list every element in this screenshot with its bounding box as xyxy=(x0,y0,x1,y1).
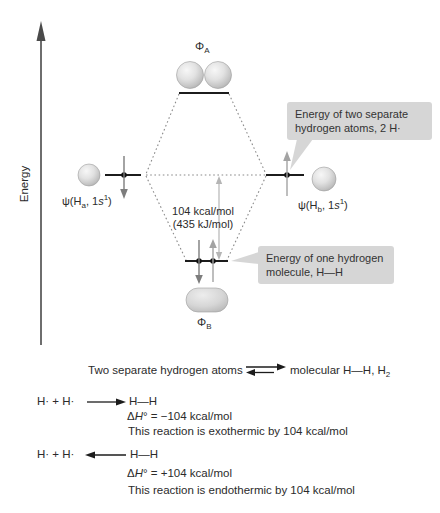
energy-gap-kj: (435 kJ/mol) xyxy=(165,218,241,231)
phi-a-symbol: Φ xyxy=(195,40,204,52)
antibonding-orbital-lobe-right-icon xyxy=(205,62,232,89)
atomic-orbital-b-label: ψ(Hb, 1s1) xyxy=(298,195,348,216)
electron-spin-down-arrowhead-a-icon xyxy=(120,189,128,199)
equilibrium-right-sub: 2 xyxy=(386,370,390,379)
equilibrium-right-main: molecular H—H, H xyxy=(290,364,386,376)
callout-molecule-line1: Energy of one hydrogen xyxy=(266,251,386,265)
callout-atoms-line1: Energy of two separate xyxy=(295,107,424,121)
psi-b-pre: ψ(H xyxy=(298,199,317,211)
hydrogen-b-1s-sphere-icon xyxy=(312,167,336,191)
callout-separate-atoms: Energy of two separate hydrogen atoms, 2… xyxy=(287,102,432,140)
callout-molecule-pointer-icon xyxy=(231,252,259,264)
reverse-dh-value: = +104 kcal/mol xyxy=(148,467,232,479)
callout-atoms-pointer-icon xyxy=(290,139,313,170)
forward-dh-h: H xyxy=(135,410,143,422)
forward-dh-delta: Δ xyxy=(127,410,135,422)
forward-reaction-arrowhead-icon xyxy=(116,398,126,405)
equilibrium-reverse-arrowhead-icon xyxy=(246,369,255,376)
bonding-spin-down-arrowhead-icon xyxy=(195,275,203,284)
reverse-reaction-arrowhead-icon xyxy=(85,451,95,458)
psi-a-mid: , 1 xyxy=(86,195,98,207)
energy-axis-arrowhead-icon xyxy=(37,21,46,41)
psi-a-pre: ψ(H xyxy=(62,195,81,207)
antibonding-orbital-label: ΦA xyxy=(195,40,210,57)
bonding-orbital-lobe-icon xyxy=(186,288,228,312)
forward-product: H—H xyxy=(129,395,157,408)
reverse-dh-h: H xyxy=(135,467,143,479)
energy-gap-arrowhead-up-icon xyxy=(216,176,222,184)
reverse-note: This reaction is endothermic by 104 kcal… xyxy=(128,484,355,497)
callout-molecule-line2: molecule, H—H xyxy=(266,265,386,279)
bonding-spin-up-arrowhead-icon xyxy=(209,239,217,248)
dotted-connector-antibonding-left xyxy=(146,94,179,174)
phi-a-sub: A xyxy=(204,46,209,55)
equilibrium-left-text: Two separate hydrogen atoms xyxy=(88,364,243,377)
energy-gap-arrowhead-down-icon xyxy=(216,252,222,260)
forward-enthalpy: ΔH° = −104 kcal/mol xyxy=(127,410,232,423)
forward-reactants: H· + H· xyxy=(37,395,74,408)
phi-b-symbol: Φ xyxy=(197,316,206,328)
reverse-enthalpy: ΔH° = +104 kcal/mol xyxy=(127,467,232,480)
psi-a-post: ) xyxy=(108,195,112,207)
bonding-orbital-label: ΦB xyxy=(197,316,212,333)
callout-hydrogen-molecule: Energy of one hydrogen molecule, H—H xyxy=(258,246,394,284)
dotted-connector-antibonding-right xyxy=(229,94,266,174)
forward-note: This reaction is exothermic by 104 kcal/… xyxy=(128,425,348,438)
psi-b-mid: , 1 xyxy=(322,199,334,211)
forward-dh-value: = −104 kcal/mol xyxy=(148,410,232,422)
mo-energy-diagram-figure: Energy ΦA ψ(Ha, 1s1) ψ(Hb, 1s1) 104 kcal… xyxy=(0,0,440,513)
equilibrium-forward-arrowhead-icon xyxy=(277,363,286,370)
energy-gap-kcal: 104 kcal/mol xyxy=(165,205,241,218)
hydrogen-a-1s-sphere-icon xyxy=(78,164,100,186)
reverse-dh-delta: Δ xyxy=(127,467,135,479)
psi-b-post: ) xyxy=(344,199,348,211)
electron-spin-up-arrowhead-b-icon xyxy=(283,151,291,161)
reverse-reactants: H· + H· xyxy=(37,448,74,461)
phi-b-sub: B xyxy=(206,322,211,331)
energy-gap-label: 104 kcal/mol (435 kJ/mol) xyxy=(165,205,241,231)
antibonding-orbital-lobe-left-icon xyxy=(177,62,204,89)
equilibrium-right-text: molecular H—H, H2 xyxy=(290,364,390,381)
energy-axis-label: Energy xyxy=(18,155,30,213)
atomic-orbital-a-label: ψ(Ha, 1s1) xyxy=(62,191,112,212)
reverse-product: H—H xyxy=(130,448,158,461)
callout-atoms-line2: hydrogen atoms, 2 H· xyxy=(295,121,424,135)
